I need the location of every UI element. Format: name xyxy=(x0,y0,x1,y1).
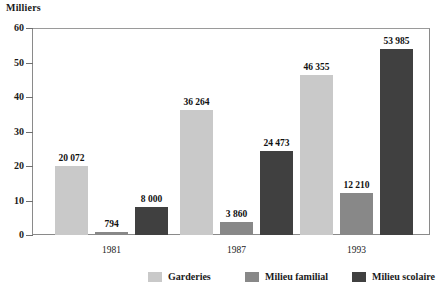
bar-value-label: 46 355 xyxy=(290,63,343,73)
legend-label: Milieu scolaire xyxy=(372,272,435,282)
bar-value-label: 3 860 xyxy=(210,210,263,220)
bar xyxy=(260,151,293,235)
bar xyxy=(220,222,253,235)
y-axis-tick xyxy=(26,201,33,202)
y-axis-tick-label: 60 xyxy=(2,23,24,33)
y-axis-tick-label: 30 xyxy=(2,127,24,137)
legend-item: Milieu scolaire xyxy=(352,270,435,284)
legend-item: Milieu familial xyxy=(245,270,328,284)
y-axis-tick xyxy=(26,132,33,133)
bar xyxy=(135,207,168,235)
chart-legend: GarderiesMilieu familialMilieu scolaire xyxy=(0,270,445,286)
y-axis-tick xyxy=(26,97,33,98)
legend-label: Milieu familial xyxy=(265,272,328,282)
legend-item: Garderies xyxy=(148,270,211,284)
y-axis-tick-label: 0 xyxy=(2,230,24,240)
bar-value-label: 36 264 xyxy=(170,98,223,108)
bar xyxy=(380,49,413,235)
bar xyxy=(340,193,373,235)
y-axis-tick-label: 20 xyxy=(2,161,24,171)
legend-swatch-icon xyxy=(245,272,259,282)
bar-value-label: 794 xyxy=(85,220,138,230)
legend-swatch-icon xyxy=(352,272,366,282)
y-axis-tick xyxy=(26,28,33,29)
bar xyxy=(95,232,128,235)
bar xyxy=(55,166,88,235)
bar-value-label: 12 210 xyxy=(330,181,383,191)
y-axis-unit-title: Milliers xyxy=(6,2,41,13)
y-axis-tick xyxy=(26,63,33,64)
y-axis-tick-label: 50 xyxy=(2,58,24,68)
y-axis-tick-label: 40 xyxy=(2,92,24,102)
y-axis-tick-label: 10 xyxy=(2,196,24,206)
bar-value-label: 53 985 xyxy=(370,37,423,47)
x-axis-group-label: 1993 xyxy=(327,246,387,256)
bar xyxy=(300,75,333,235)
x-axis-group-label: 1981 xyxy=(82,246,142,256)
x-axis-group-label: 1987 xyxy=(207,246,267,256)
legend-label: Garderies xyxy=(168,272,211,282)
bar-value-label: 20 072 xyxy=(45,154,98,164)
bar xyxy=(180,110,213,235)
y-axis-tick xyxy=(26,166,33,167)
legend-swatch-icon xyxy=(148,272,162,282)
bar-value-label: 8 000 xyxy=(125,195,178,205)
bar-value-label: 24 473 xyxy=(250,139,303,149)
y-axis-tick xyxy=(26,235,33,236)
bar-chart: Milliers 0102030405060 20 0727948 00036 … xyxy=(0,0,445,295)
